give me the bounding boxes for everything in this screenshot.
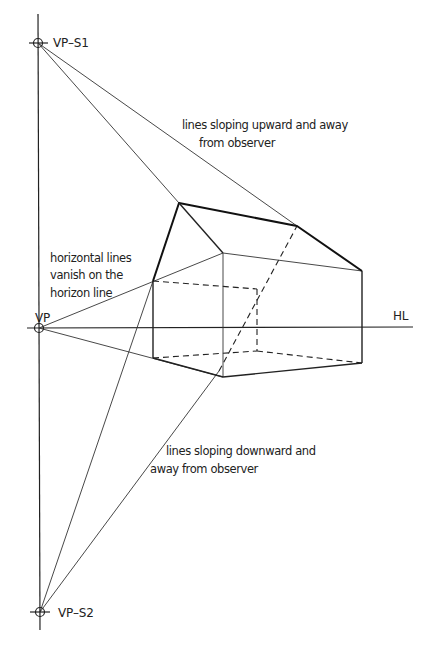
upward-note-line2: from observer bbox=[199, 136, 276, 150]
perspective-diagram: VP–S1 VP VP–S2 HL lines sloping upward a… bbox=[0, 0, 438, 653]
house-hidden-edges bbox=[153, 281, 362, 363]
horizontal-note-line3: horizon line bbox=[50, 286, 113, 300]
hl-label: HL bbox=[393, 309, 409, 323]
downward-note-line1: lines sloping downward and bbox=[166, 444, 316, 458]
horizontal-note-line2: vanish on the bbox=[50, 268, 123, 282]
construction-lines-vp-s2 bbox=[40, 226, 297, 612]
vp-s1-label: VP–S1 bbox=[53, 36, 89, 50]
vp-s2-label: VP–S2 bbox=[58, 606, 94, 620]
downward-note-line2: away from observer bbox=[150, 462, 259, 476]
construction-lines-vp-s1 bbox=[38, 43, 297, 226]
horizon-line bbox=[27, 327, 413, 328]
vp-label: VP bbox=[35, 311, 50, 325]
house-roof bbox=[153, 203, 362, 281]
upward-note-line1: lines sloping upward and away bbox=[182, 118, 348, 132]
horizontal-note-line1: horizontal lines bbox=[50, 251, 132, 265]
